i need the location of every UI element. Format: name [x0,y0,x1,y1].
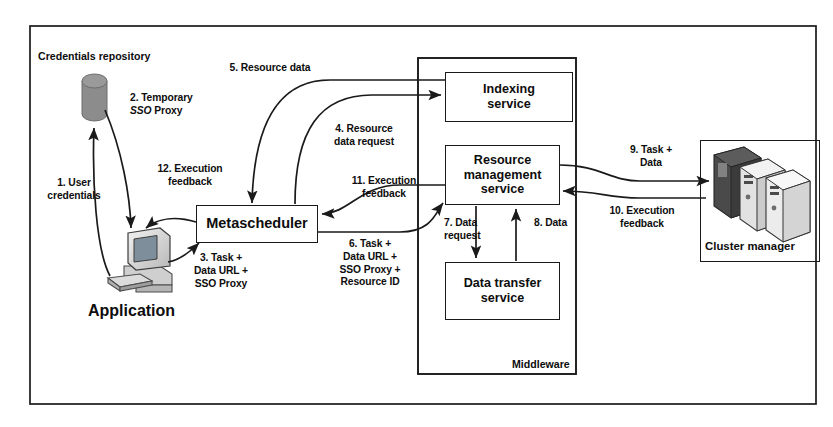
node-data-transfer-service-label: Data transfer service [464,276,542,306]
flow-label-2: 2. TemporarySSO Proxy [130,92,230,118]
flow-label-9: 9. Task + Data [608,144,694,170]
arrow-6-task-dataurl-ssoproxy-resourceid [318,203,443,232]
flow-label-10: 10. Execution feedback [592,205,692,231]
application-computer-icon [108,228,172,292]
flow-label-2-sso: SSO [130,105,151,116]
credentials-repository-icon [82,74,107,121]
node-resource-management-service[interactable]: Resource management service [445,145,560,205]
flow-label-3: 3. Task + Data URL + SSO Proxy [178,252,264,290]
node-cluster-manager-label: Cluster manager [705,240,795,252]
flow-label-12: 12. Execution feedback [140,163,240,189]
flow-label-6: 6. Task + Data URL + SSO Proxy + Resourc… [324,238,416,289]
node-data-transfer-service[interactable]: Data transfer service [445,262,560,320]
node-metascheduler-label: Metascheduler [206,215,308,232]
arrow-2-temporary-sso-proxy [105,110,131,228]
flow-label-7: 7. Data request [444,217,502,243]
node-credentials-repository-label: Credentials repository [38,50,150,62]
arrow-12-execution-feedback [146,219,196,228]
flow-label-1: 1. User credentials [38,177,110,203]
outer-frame [30,26,816,404]
node-application-label: Application [88,302,175,320]
flow-label-5: 5. Resource data [210,62,330,75]
arrow-10-execution-feedback [563,191,706,198]
middleware-container-label: Middleware [512,358,570,370]
flow-label-2-proxy: Proxy [151,105,182,116]
node-indexing-service[interactable]: Indexing service [445,72,573,122]
flow-label-4: 4. Resource data request [318,123,410,149]
node-indexing-service-label: Indexing service [483,82,535,112]
node-metascheduler[interactable]: Metascheduler [196,205,318,243]
flow-label-2-line1: 2. Temporary [130,92,193,103]
architecture-diagram: Metascheduler Indexing service Resource … [0,0,833,427]
flow-label-8: 8. Data [534,217,592,230]
node-resource-management-service-label: Resource management service [464,153,542,198]
flow-label-11: 11. Execution feedback [336,175,432,201]
